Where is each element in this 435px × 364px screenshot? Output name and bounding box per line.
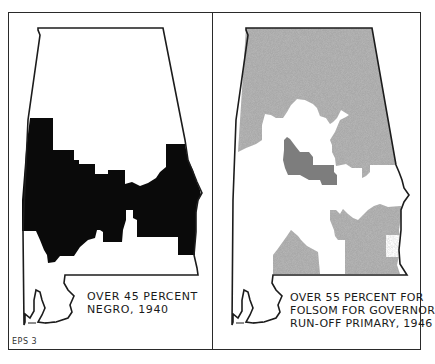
figure-id-label: EPS 3 xyxy=(12,337,37,346)
map-left xyxy=(22,28,202,325)
caption-left-line-2: NEGRO, 1940 xyxy=(87,303,198,316)
map-right xyxy=(232,28,409,325)
folsom-region-center-dark xyxy=(283,137,337,185)
caption-right: OVER 55 PERCENT FOR FOLSOM FOR GOVERNOR … xyxy=(290,291,435,330)
caption-right-line-2: FOLSOM FOR GOVERNOR xyxy=(290,304,435,317)
caption-left: OVER 45 PERCENT NEGRO, 1940 xyxy=(87,290,198,316)
caption-right-line-3: RUN-OFF PRIMARY, 1946 xyxy=(290,317,435,330)
caption-left-line-1: OVER 45 PERCENT xyxy=(87,290,198,303)
panel-divider xyxy=(212,12,213,350)
negro-majority-region xyxy=(22,118,201,263)
caption-right-line-1: OVER 55 PERCENT FOR xyxy=(290,291,435,304)
